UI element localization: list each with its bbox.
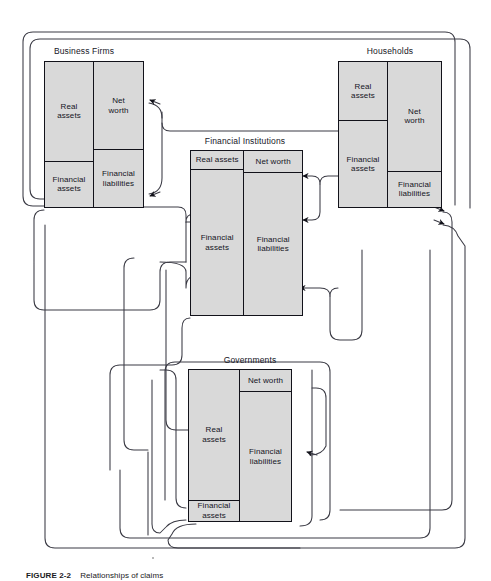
figure-caption-text: Relationships of claims (80, 571, 163, 580)
link-fi-fa-bottom (110, 318, 190, 470)
bf-net-worth: Net worth (94, 62, 143, 149)
fi-assets-column: Real assets Financial assets (191, 151, 244, 315)
gov-assets-column: Real assets Financial assets (189, 370, 240, 521)
gov-financial-assets: Financial assets (189, 500, 239, 521)
hh-financial-assets: Financial assets (339, 120, 387, 207)
gov-net-worth: Net worth (240, 370, 291, 391)
link-mid-riser-3 (124, 258, 148, 450)
fi-financial-assets: Financial assets (191, 169, 243, 315)
sector-title-households: Households (330, 46, 450, 56)
gov-liabilities-column: Net worth Financial liabilities (240, 370, 291, 521)
hh-real-assets: Real assets (339, 62, 387, 120)
sector-title-governments: Governments (180, 355, 320, 365)
gov-real-assets: Real assets (189, 370, 239, 500)
bf-financial-assets: Financial assets (45, 161, 93, 207)
sector-households: Households Real assets Financial assets (330, 46, 450, 212)
fi-financial-liabilities: Financial liabilities (244, 172, 302, 315)
link-hh-fl-arrow-b (434, 220, 444, 224)
taccount-financial-institutions: Real assets Financial assets Net worth (190, 150, 303, 316)
sector-title-business-firms: Business Firms (24, 46, 144, 56)
figure-caption-label: FIGURE 2-2 (26, 571, 71, 580)
link-hh-fl-trunk-a (340, 212, 452, 510)
figure-caption: FIGURE 2-2 Relationships of claims (26, 571, 163, 580)
fi-net-worth: Net worth (244, 151, 302, 172)
sector-business-firms: Business Firms Real assets Financial ass… (24, 46, 144, 212)
link-fi-fl-in-mid-trunk (330, 250, 362, 340)
sector-financial-institutions: Financial Institutions Real assets Finan… (180, 136, 310, 326)
sector-governments: Governments Real assets Financial assets (180, 355, 320, 530)
hh-assets-column: Real assets Financial assets (339, 62, 388, 207)
link-hh-fa-to-bf (162, 123, 338, 131)
taccount-business-firms: Real assets Financial assets Net worth (44, 61, 144, 208)
fi-real-assets: Real assets (191, 151, 243, 169)
hh-financial-liabilities: Financial liabilities (388, 171, 441, 207)
figure-container: Business Firms Real assets Financial ass… (0, 0, 491, 581)
hh-liabilities-column: Net worth Financial liabilities (388, 62, 441, 207)
bf-liabilities-column: Net worth Financial liabilities (94, 62, 143, 207)
bf-assets-column: Real assets Financial assets (45, 62, 94, 207)
bf-financial-liabilities: Financial liabilities (94, 149, 143, 207)
bf-real-assets: Real assets (45, 62, 93, 161)
gov-financial-liabilities: Financial liabilities (240, 391, 291, 521)
fi-liabilities-column: Net worth Financial liabilities (244, 151, 302, 315)
taccount-governments: Real assets Financial assets Net worth (188, 369, 292, 522)
link-bf-fa-down (34, 210, 186, 310)
hh-net-worth: Net worth (388, 62, 441, 171)
link-bf-bracket (149, 103, 162, 194)
taccount-households: Real assets Financial assets Net worth (338, 61, 442, 208)
sector-title-financial-institutions: Financial Institutions (180, 136, 310, 146)
page-speck (152, 557, 154, 559)
